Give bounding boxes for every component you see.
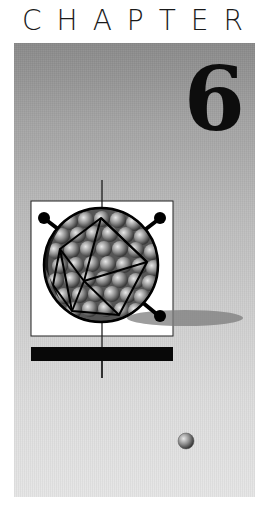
black-bar xyxy=(31,347,173,361)
shadow xyxy=(127,310,243,326)
small-sphere-icon xyxy=(178,433,194,449)
chapter-number: 6 xyxy=(184,55,245,143)
